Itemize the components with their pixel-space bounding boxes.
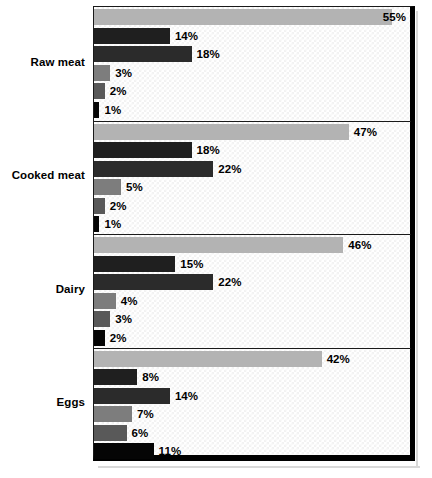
bar-row: 2% (94, 330, 410, 346)
bar-row: 18% (94, 142, 410, 158)
bar-row: 4% (94, 293, 410, 309)
bar (94, 293, 116, 309)
bar (94, 124, 349, 140)
bar-value-label: 42% (327, 353, 350, 365)
category-label: Raw meat (31, 56, 86, 68)
bar (94, 330, 105, 346)
bar (94, 388, 170, 404)
bar-row: 14% (94, 28, 410, 44)
bar (94, 9, 392, 25)
bar (94, 443, 154, 459)
bar-row: 15% (94, 256, 410, 272)
category-label: Eggs (56, 396, 85, 408)
bar-value-label: 22% (218, 163, 241, 175)
bar (94, 256, 175, 272)
bar-group: Dairy46%15%22%4%3%2% (0, 234, 432, 348)
bar (94, 216, 99, 232)
bar (94, 102, 99, 118)
bar-value-label: 47% (354, 126, 377, 138)
bar-row: 1% (94, 216, 410, 232)
bar-value-label: 14% (175, 390, 198, 402)
bar-value-label: 3% (115, 313, 132, 325)
bar-row: 18% (94, 46, 410, 62)
grouped-bar-chart: Raw meat55%14%18%3%2%1%Cooked meat47%18%… (0, 0, 432, 478)
bar-row: 8% (94, 369, 410, 385)
bar-value-label: 18% (197, 144, 220, 156)
group-separator-line (94, 348, 411, 349)
bar-row: 1% (94, 102, 410, 118)
bar (94, 406, 132, 422)
bar-value-label: 46% (348, 239, 371, 251)
bar-row: 2% (94, 83, 410, 99)
bar-value-label: 15% (180, 258, 203, 270)
bar-value-label: 2% (110, 85, 127, 97)
group-separator-line (94, 234, 411, 235)
bar (94, 161, 213, 177)
bar (94, 65, 110, 81)
bar-value-label: 1% (104, 218, 121, 230)
bar-row: 5% (94, 179, 410, 195)
bar (94, 311, 110, 327)
bar-value-label: 2% (110, 200, 127, 212)
bar-row: 42% (94, 351, 410, 367)
bar-row: 46% (94, 237, 410, 253)
bar-value-label: 1% (104, 104, 121, 116)
bar-value-label: 8% (142, 371, 159, 383)
bar-groups-layer: Raw meat55%14%18%3%2%1%Cooked meat47%18%… (0, 0, 432, 478)
bar (94, 351, 322, 367)
bar-value-label: 14% (175, 30, 198, 42)
bar (94, 198, 105, 214)
bar-value-label: 6% (132, 427, 149, 439)
bar-row: 55% (94, 9, 410, 25)
bar (94, 28, 170, 44)
bar (94, 83, 105, 99)
bar-row: 47% (94, 124, 410, 140)
bar (94, 369, 137, 385)
bar-value-label: 18% (197, 48, 220, 60)
bar (94, 142, 192, 158)
bar-value-label: 2% (110, 332, 127, 344)
bar-value-label: 5% (126, 181, 143, 193)
bar (94, 425, 127, 441)
bar-group: Raw meat55%14%18%3%2%1% (0, 7, 432, 121)
bar-row: 7% (94, 406, 410, 422)
bar-value-label: 4% (121, 295, 138, 307)
bar-value-label: 3% (115, 67, 132, 79)
bar-row: 6% (94, 425, 410, 441)
category-label: Dairy (56, 283, 85, 295)
bar (94, 237, 343, 253)
group-separator-line (94, 121, 411, 122)
bar-value-label: 22% (218, 276, 241, 288)
bar-value-label: 7% (137, 408, 154, 420)
bar-row: 3% (94, 311, 410, 327)
bar (94, 46, 192, 62)
bar (94, 179, 121, 195)
bar-value-label: 55% (383, 11, 406, 23)
bar (94, 274, 213, 290)
bar-row: 22% (94, 161, 410, 177)
bar-row: 14% (94, 388, 410, 404)
bar-value-label: 11% (159, 445, 182, 457)
bar-row: 2% (94, 198, 410, 214)
bar-row: 22% (94, 274, 410, 290)
category-label: Cooked meat (12, 169, 85, 181)
bar-row: 11% (94, 443, 410, 459)
bar-group: Eggs42%8%14%7%6%11% (0, 348, 432, 462)
bar-row: 3% (94, 65, 410, 81)
bar-group: Cooked meat47%18%22%5%2%1% (0, 121, 432, 235)
